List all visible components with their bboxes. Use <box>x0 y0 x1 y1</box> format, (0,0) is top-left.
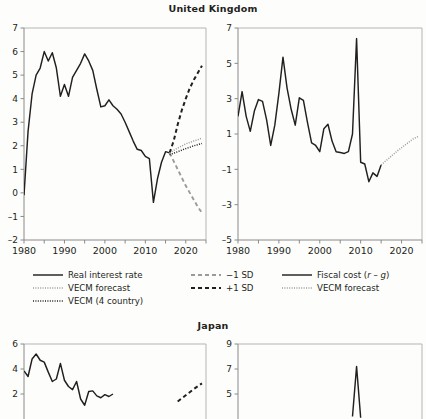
svg-text:9: 9 <box>226 339 232 349</box>
legend-item-label: −1 SD <box>226 270 253 280</box>
svg-text:6: 6 <box>12 47 18 57</box>
dotted-line-icon <box>33 283 63 293</box>
svg-text:2: 2 <box>12 389 18 399</box>
legend-column-1: Real interest rateVECM forecastVECM (4 c… <box>33 268 143 307</box>
chart-japan-real-interest-rate: 246 <box>0 336 210 419</box>
svg-text:4: 4 <box>12 94 18 104</box>
legend-item-label: +1 SD <box>226 283 253 293</box>
legend-item-label: VECM forecast <box>317 283 379 293</box>
solid-line-icon <box>282 270 312 280</box>
svg-text:1: 1 <box>12 165 18 175</box>
svg-text:5: 5 <box>226 59 232 69</box>
svg-text:0: 0 <box>12 188 18 198</box>
svg-text:2000: 2000 <box>308 245 332 256</box>
legend-item: −1 SD <box>191 268 253 281</box>
svg-text:1: 1 <box>226 129 232 139</box>
svg-text:7: 7 <box>226 364 232 374</box>
svg-text:2000: 2000 <box>93 245 117 256</box>
svg-text:3: 3 <box>226 94 232 104</box>
legend-item: Fiscal cost (r – g) <box>282 268 389 281</box>
svg-text:–1: –1 <box>8 212 18 222</box>
legend-item-label: VECM (4 country) <box>68 296 143 306</box>
chart-japan-fiscal-cost: 579 <box>212 336 426 419</box>
legend-item: VECM forecast <box>33 281 143 294</box>
legend-item: Real interest rate <box>33 268 143 281</box>
svg-text:7: 7 <box>226 23 232 33</box>
legend-item: +1 SD <box>191 281 253 294</box>
svg-text:5: 5 <box>12 70 18 80</box>
legend-item: VECM (4 country) <box>33 294 143 307</box>
solid-line-icon <box>33 270 63 280</box>
figure-root: United Kingdom –2–1012345671980199020002… <box>0 0 426 419</box>
svg-text:7: 7 <box>12 23 18 33</box>
legend-item-label: Real interest rate <box>68 270 142 280</box>
svg-text:3: 3 <box>12 117 18 127</box>
svg-text:–1: –1 <box>222 165 232 175</box>
svg-text:2010: 2010 <box>133 245 157 256</box>
svg-text:2010: 2010 <box>349 245 373 256</box>
chart-uk-fiscal-cost: –5–3–1135719801990200020102020 <box>212 20 426 268</box>
svg-text:4: 4 <box>12 364 18 374</box>
dotted-line-icon <box>282 283 312 293</box>
dotted-line-icon <box>33 296 63 306</box>
dashed-line-icon <box>191 270 221 280</box>
legend-item-label: Fiscal cost (r – g) <box>317 270 389 280</box>
svg-text:–2: –2 <box>8 235 18 245</box>
svg-text:5: 5 <box>226 389 232 399</box>
legend-column-2: −1 SD+1 SD <box>191 268 253 294</box>
chart-uk-real-interest-rate: –2–10123456719801990200020102020 <box>0 20 210 268</box>
svg-text:–3: –3 <box>222 200 232 210</box>
svg-text:2020: 2020 <box>174 245 198 256</box>
dashed-line-icon <box>191 283 221 293</box>
svg-text:1990: 1990 <box>267 245 291 256</box>
panel-title-united-kingdom: United Kingdom <box>0 3 426 14</box>
legend-column-3: Fiscal cost (r – g)VECM forecast <box>282 268 389 294</box>
figure-legend: Real interest rateVECM forecastVECM (4 c… <box>0 268 426 312</box>
svg-text:2: 2 <box>12 141 18 151</box>
svg-text:2020: 2020 <box>389 245 413 256</box>
legend-item-label: VECM forecast <box>68 283 130 293</box>
legend-item: VECM forecast <box>282 281 389 294</box>
svg-text:–5: –5 <box>222 235 232 245</box>
svg-text:1980: 1980 <box>12 245 36 256</box>
svg-text:1980: 1980 <box>226 245 250 256</box>
panel-title-japan: Japan <box>0 320 426 331</box>
svg-text:1990: 1990 <box>52 245 76 256</box>
svg-text:6: 6 <box>12 339 18 349</box>
